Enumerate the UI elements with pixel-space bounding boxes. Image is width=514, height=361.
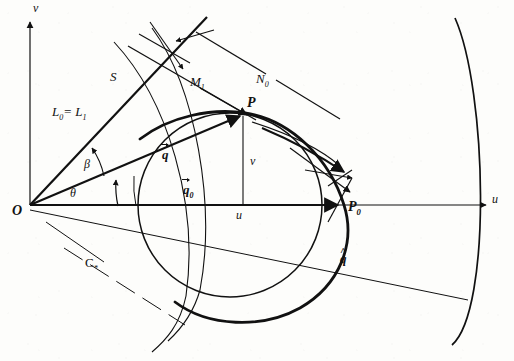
label-q-hat: ^q (340, 252, 347, 265)
dimension-tick-group (139, 22, 214, 69)
label-angle-beta: β (84, 158, 90, 170)
diagram-vector-layer (0, 0, 514, 361)
u-axis-label: u (492, 193, 498, 205)
ray-q-hat (30, 210, 468, 300)
label-c-star-base: C (85, 255, 94, 270)
label-coordinate-v: v (250, 155, 255, 167)
axis-group (30, 22, 486, 205)
diagram-canvas: v u O P P0 S L0= L1 M1 N0 C* q q0 ^q v u… (0, 0, 514, 361)
point-label-p0-subscript: 0 (357, 207, 361, 217)
line-c-star-dashed (64, 248, 185, 325)
angle-arc-theta-outer (134, 176, 136, 206)
vector-arrow-overline-q (161, 144, 168, 145)
label-line-s: S (110, 70, 117, 83)
dimension-tick-left (139, 34, 190, 63)
label-n0-subscript: 0 (265, 80, 269, 89)
point-label-p0-base: P (348, 199, 357, 214)
label-c-star-subscript: * (94, 264, 98, 273)
label-m1: M1 (190, 75, 205, 92)
angle-arc-theta (116, 180, 118, 206)
label-n0: N0 (256, 72, 269, 89)
label-m1-subscript: 1 (201, 83, 205, 92)
label-vector-q0-base: q (183, 182, 190, 197)
label-vector-q0: q0 (183, 183, 194, 200)
right-boundary-arc (452, 18, 481, 345)
label-vector-q-base: q (162, 147, 169, 162)
line-n0-segment-2 (276, 80, 340, 119)
label-n0-base: N (256, 71, 265, 86)
label-coordinate-u: u (236, 209, 242, 221)
point-label-p0: P0 (348, 200, 361, 216)
label-vector-q: q (162, 148, 169, 161)
label-c-star: C* (85, 256, 98, 273)
label-l-equals: = L (63, 104, 82, 119)
point-label-p: P (247, 96, 256, 110)
label-l1-subscript: 1 (83, 113, 87, 122)
origin-label: O (12, 204, 22, 218)
label-angle-theta: θ (70, 187, 76, 199)
label-l-equality: L0= L1 (52, 105, 87, 122)
hat-accent-mark: ^ (340, 246, 346, 257)
label-vector-q0-subscript: 0 (190, 191, 194, 200)
line-n0 (196, 32, 266, 74)
label-m1-base: M (190, 74, 201, 89)
v-axis-label: v (33, 2, 38, 14)
angle-arc-beta (92, 148, 104, 176)
vector-arrow-overline-q0 (182, 179, 189, 180)
vector-q (30, 116, 240, 205)
